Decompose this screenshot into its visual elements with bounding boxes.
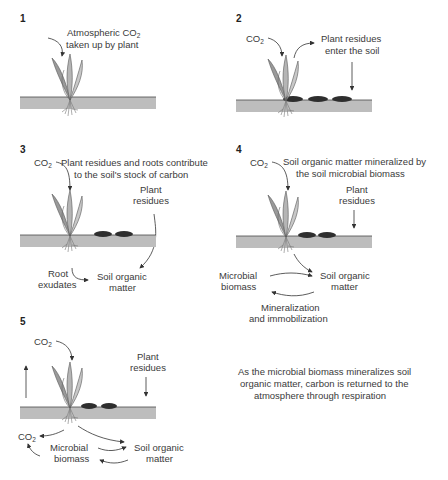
co2-uptake-arrow	[56, 341, 72, 360]
biomass-to-co2-arrow	[28, 444, 40, 456]
root-to-som-arrow	[294, 254, 312, 272]
residues-label-line-2: residues	[339, 195, 375, 206]
som-label-line-2: matter	[146, 453, 173, 464]
respiration-arrow	[40, 430, 64, 436]
plant-residue	[115, 231, 133, 237]
panel-number: 4	[236, 144, 242, 155]
panel-number: 3	[20, 144, 26, 155]
panel-5: 5 CO2 Plant residues CO2 Microbial bioma…	[18, 316, 411, 464]
carbon-cycle-diagram: 1 Atmospheric CO2 taken up by plant 2 CO…	[0, 0, 448, 480]
co2-label: CO2	[34, 336, 52, 348]
residues-label-line-1: Plant	[137, 351, 159, 362]
caption-line-2: organic matter, carbon is returned to th…	[240, 378, 408, 389]
biomass-to-som-arrow	[270, 273, 312, 276]
residues-label-line-1: Plant	[140, 184, 162, 195]
caption-line-1: As the microbial biomass mineralizes soi…	[238, 366, 411, 377]
panel-title-line-1: Soil organic matter mineralized by	[283, 156, 426, 167]
plant-residue	[81, 403, 97, 409]
co2-label: CO2	[34, 157, 52, 169]
microbial-label-line-1: Microbial	[50, 442, 88, 453]
som-label-line-1: Soil organic	[97, 271, 147, 282]
som-to-biomass-arrow	[100, 460, 128, 463]
co2-uptake-arrow	[268, 38, 282, 56]
co2-out-label: CO2	[18, 431, 36, 443]
panel-3: 3 CO2 Plant residues and roots contribut…	[20, 144, 208, 293]
som-label-line-2: matter	[109, 282, 136, 293]
soil-band	[20, 97, 156, 109]
co2-label: CO2	[246, 33, 264, 45]
panel-title-line-1: Plant residues and roots contribute	[61, 157, 208, 168]
plant-residue	[101, 403, 117, 409]
panel-title-line-2: the soil microbial biomass	[296, 168, 405, 179]
plant-residue	[318, 232, 336, 238]
panel-1: 1 Atmospheric CO2 taken up by plant	[20, 13, 156, 116]
panel-title-line-1: Plant residues	[321, 33, 381, 44]
panel-number: 1	[20, 13, 26, 24]
plant-residue	[332, 96, 352, 102]
panel-title-line-1: Atmospheric CO2	[67, 27, 141, 39]
root-exudates-line-2: exudates	[38, 279, 77, 290]
residues-label-line-2: residues	[130, 362, 166, 373]
caption-line-3: atmosphere through respiration	[254, 390, 386, 401]
panel-number: 2	[236, 13, 242, 24]
root-to-som-arrow	[78, 426, 124, 442]
panel-4: 4 CO2 Soil organic matter mineralized by…	[219, 144, 426, 324]
residue-arrow	[294, 43, 314, 58]
microbial-label-line-2: biomass	[221, 281, 257, 292]
panel-title-line-2: enter the soil	[325, 45, 379, 56]
microbial-label-line-2: biomass	[54, 453, 90, 464]
plant-residue	[308, 96, 328, 102]
co2-label: CO2	[250, 157, 268, 169]
panel-2: 2 CO2 Plant residues enter the soil	[236, 13, 381, 117]
process-label-line-2: and immobilization	[249, 313, 328, 324]
root-exudates-line-1: Root	[48, 268, 68, 279]
biomass-to-som-arrow	[98, 447, 126, 451]
microbial-label-line-1: Microbial	[219, 270, 257, 281]
residues-label-line-1: Plant	[346, 184, 368, 195]
plant-residue	[94, 231, 112, 237]
panel-title-line-2: taken up by plant	[66, 39, 139, 50]
som-to-biomass-arrow	[272, 292, 314, 296]
som-label-line-1: Soil organic	[320, 270, 370, 281]
panel-title-line-2: to the soil's stock of carbon	[74, 169, 188, 180]
som-label-line-1: Soil organic	[134, 442, 184, 453]
som-label-line-2: matter	[331, 281, 358, 292]
co2-uptake-arrow	[48, 38, 62, 56]
panel-number: 5	[20, 316, 26, 327]
soil-band	[236, 100, 372, 112]
plant-residue	[298, 232, 316, 238]
soil-band	[20, 235, 156, 247]
residues-label-line-2: residues	[133, 195, 169, 206]
process-label-line-1: Mineralization	[261, 302, 320, 313]
